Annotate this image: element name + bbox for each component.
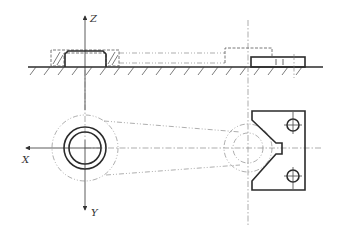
- x-axis-label: X: [21, 154, 30, 165]
- ground-hatching: [30, 67, 302, 75]
- arm-front: [119, 48, 272, 63]
- top-view: X Y: [21, 70, 322, 218]
- arm-lower-edge: [106, 165, 240, 175]
- front-view: Z: [28, 13, 323, 225]
- v-block-front: [251, 57, 305, 67]
- technical-drawing: Z X Y: [0, 0, 339, 230]
- y-axis-label: Y: [91, 207, 99, 218]
- v-block-top: [252, 111, 305, 190]
- z-axis-label: Z: [89, 13, 98, 24]
- arm-upper-edge: [104, 121, 240, 132]
